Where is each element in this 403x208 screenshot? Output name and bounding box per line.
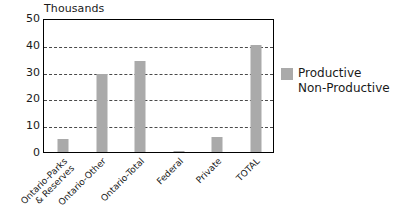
bar (58, 139, 69, 152)
x-axis-tick-label: TOTAL (235, 156, 262, 183)
y-axis-tick-40: 40 (2, 40, 40, 51)
bar (250, 45, 261, 152)
bar-chart: Thousands 01020304050 Ontario-Parks& Res… (0, 0, 403, 208)
bar-series-productive-non-productive (44, 20, 273, 152)
bar-slot (44, 20, 83, 152)
plot-area (43, 19, 274, 153)
x-axis-tick-wrap: Federal (159, 155, 198, 208)
bar-slot (198, 20, 237, 152)
x-axis-tick-wrap: Ontario-Total (120, 155, 159, 208)
bar-slot (83, 20, 122, 152)
legend-label-productive-non-productive: Productive Non-Productive (298, 66, 390, 96)
y-axis-tick-labels: 01020304050 (0, 0, 40, 208)
bar (173, 151, 184, 152)
chart-legend: Productive Non-Productive (281, 66, 401, 96)
y-axis-tick-10: 10 (2, 120, 40, 131)
bar-slot (160, 20, 199, 152)
x-axis-tick-wrap: Private (197, 155, 236, 208)
bar (96, 74, 107, 152)
bar-slot (121, 20, 160, 152)
bar-slot (237, 20, 276, 152)
bar (135, 61, 146, 152)
bar (212, 137, 223, 152)
x-axis-tick-labels: Ontario-Parks& ReservesOntario-OtherOnta… (43, 155, 274, 208)
y-axis-tick-0: 0 (2, 147, 40, 158)
x-axis-tick-label: Federal (154, 156, 185, 187)
axis-unit-label: Thousands (44, 2, 104, 15)
y-axis-tick-20: 20 (2, 93, 40, 104)
y-axis-tick-50: 50 (2, 13, 40, 24)
x-axis-tick-wrap: TOTAL (236, 155, 275, 208)
y-axis-tick-30: 30 (2, 67, 40, 78)
legend-swatch-productive-non-productive (281, 68, 293, 80)
x-axis-tick-label: Private (194, 156, 223, 185)
